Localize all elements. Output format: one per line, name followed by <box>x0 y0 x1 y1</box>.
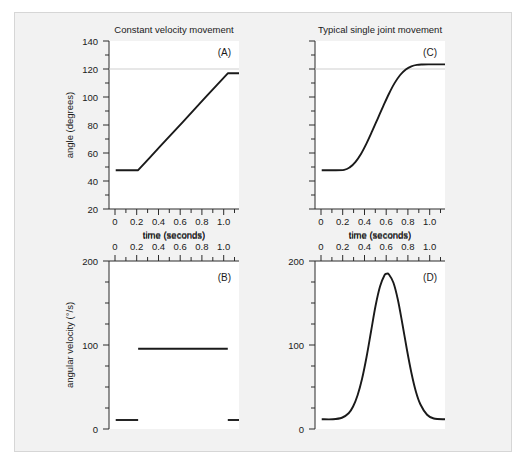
panel-c-xtick-04: 0.4 <box>358 216 371 227</box>
panel-b-xtick-02: 0.2 <box>130 241 143 252</box>
panel-b-xtick-10: 1.0 <box>217 241 230 252</box>
panel-c-title: Typical single joint movement <box>318 24 442 35</box>
panel-a-xtick-08: 0.8 <box>195 216 208 227</box>
panel-a-y-ticklabels: 140 120 100 80 60 40 20 <box>82 36 98 215</box>
panel-b-plot-area <box>109 261 239 429</box>
panel-d-ytick-200: 200 <box>288 256 304 267</box>
panel-b-ytick-0: 0 <box>93 424 98 435</box>
panel-d-x-ticklabels: 0 0.2 0.4 0.6 0.8 1.0 <box>318 241 436 252</box>
panel-a-xtick-02: 0.2 <box>130 216 143 227</box>
panel-d-xtick-0: 0 <box>318 241 323 252</box>
panel-c-xtick-0: 0 <box>318 216 323 227</box>
panel-a-plot-area <box>109 41 239 209</box>
figure-frame: Constant velocity movement (A) <box>14 12 512 452</box>
panel-a-ytick-100: 100 <box>82 92 98 103</box>
panel-b-x-ticks <box>115 255 235 261</box>
panel-b-y-ticklabels: 200 100 0 <box>82 256 98 435</box>
panel-a-ytick-80: 80 <box>87 120 98 131</box>
panel-c-xtick-02: 0.2 <box>336 216 349 227</box>
panel-a-y-ticks <box>103 41 109 209</box>
panel-d-y-ticklabels: 200 100 0 <box>288 256 304 435</box>
panel-b-xtick-0: 0 <box>112 241 117 252</box>
panel-a-yaxis-title: angle (degrees) <box>64 92 75 159</box>
panel-c: Typical single joint movement (C) <box>309 24 445 240</box>
panel-d-y-ticks <box>309 261 315 429</box>
panel-a-ytick-40: 40 <box>87 176 98 187</box>
panel-a: Constant velocity movement (A) <box>64 24 239 240</box>
panel-d-x-ticks <box>321 255 441 261</box>
panel-c-x-ticks <box>321 209 441 215</box>
panel-a-ytick-20: 20 <box>87 204 98 215</box>
panel-a-x-ticks <box>115 209 235 215</box>
panel-c-label: (C) <box>423 47 437 58</box>
panel-c-plot-area <box>315 41 445 209</box>
panel-d-ytick-100: 100 <box>288 340 304 351</box>
panel-d-xtick-04: 0.4 <box>358 241 371 252</box>
panel-b-x-ticklabels: 0 0.2 0.4 0.6 0.8 1.0 <box>112 241 230 252</box>
panel-d-xtick-10: 1.0 <box>423 241 436 252</box>
panel-d-xtick-02: 0.2 <box>336 241 349 252</box>
panel-b-y-ticks <box>103 261 109 429</box>
panel-b-xaxis-title: time (seconds) <box>143 230 205 241</box>
panel-a-xtick-0: 0 <box>112 216 117 227</box>
panel-a-label: (A) <box>218 47 231 58</box>
panel-d-xaxis-title: time (seconds) <box>349 230 411 241</box>
panel-a-xtick-06: 0.6 <box>174 216 187 227</box>
panel-a-ytick-120: 120 <box>82 64 98 75</box>
panel-a-ytick-140: 140 <box>82 36 98 47</box>
panel-c-x-ticklabels: 0 0.2 0.4 0.6 0.8 1.0 <box>318 216 436 227</box>
panel-c-xtick-06: 0.6 <box>380 216 393 227</box>
panel-b-xtick-08: 0.8 <box>195 241 208 252</box>
panel-b-ytick-100: 100 <box>82 340 98 351</box>
panel-c-xtick-10: 1.0 <box>423 216 436 227</box>
panel-a-title: Constant velocity movement <box>114 24 234 35</box>
panel-d-xtick-06: 0.6 <box>380 241 393 252</box>
panel-c-y-ticks <box>309 41 315 209</box>
panel-b: (B) 200 100 0 <box>64 230 239 435</box>
panel-b-ytick-200: 200 <box>82 256 98 267</box>
panel-b-xtick-04: 0.4 <box>152 241 165 252</box>
panel-a-xtick-10: 1.0 <box>217 216 230 227</box>
panel-a-ytick-60: 60 <box>87 148 98 159</box>
scientific-figure: Constant velocity movement (A) <box>15 13 511 451</box>
panel-c-xtick-08: 0.8 <box>401 216 414 227</box>
panel-d-label: (D) <box>423 272 437 283</box>
panel-b-label: (B) <box>218 272 231 283</box>
panel-d: (D) 200 100 0 <box>288 230 445 435</box>
panel-d-xtick-08: 0.8 <box>401 241 414 252</box>
panel-d-ytick-0: 0 <box>299 424 304 435</box>
panel-a-xtick-04: 0.4 <box>152 216 165 227</box>
panel-b-yaxis-title: angular velocity (°/s) <box>64 302 75 388</box>
panel-a-x-ticklabels: 0 0.2 0.4 0.6 0.8 1.0 <box>112 216 230 227</box>
panel-b-xtick-06: 0.6 <box>174 241 187 252</box>
